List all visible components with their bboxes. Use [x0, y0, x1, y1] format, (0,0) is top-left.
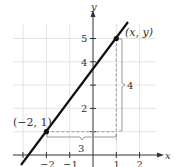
rise-run-guides: [46, 39, 116, 141]
x-tick-label: −1: [63, 159, 78, 167]
point-neg2-1: [44, 129, 49, 134]
x-axis-arrow-icon: [157, 153, 164, 158]
x-tick-label: −2: [40, 159, 55, 167]
x-tick-label: 2: [137, 159, 143, 167]
y-tick-label: 2: [81, 103, 87, 114]
x-axis-label: x: [165, 150, 171, 161]
y-tick-label: 4: [81, 57, 87, 68]
graph-line: [21, 22, 128, 165]
run-label: 3: [78, 143, 84, 154]
coordinate-graph: −2 −1 1 2 2 4 5 x y 3 4 (−2, 1) (x, y): [0, 0, 176, 167]
rise-label: 4: [127, 80, 133, 91]
point-x-y: [114, 36, 119, 41]
run-brace: [47, 134, 116, 140]
y-tick-label: 5: [81, 33, 87, 44]
y-axis-label: y: [90, 1, 97, 12]
x-tick-label: 1: [114, 159, 120, 167]
point-label-x-y: (x, y): [125, 26, 153, 39]
point-label-neg2-1: (−2, 1): [13, 116, 52, 129]
graph-container: −2 −1 1 2 2 4 5 x y 3 4 (−2, 1) (x, y): [0, 0, 176, 167]
